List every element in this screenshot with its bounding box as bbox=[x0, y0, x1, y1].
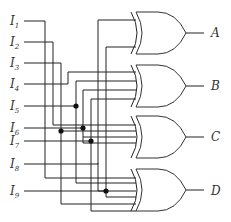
xor-gate-body bbox=[136, 169, 186, 211]
output-label-d: D bbox=[210, 184, 221, 198]
input-label-4: I4 bbox=[9, 77, 19, 93]
junction-dot bbox=[88, 138, 93, 143]
logic-circuit-diagram: I1 I2 I3 I4 I5 I6 I7 I8 I9 bbox=[0, 0, 231, 222]
input-label-2: I2 bbox=[9, 35, 20, 51]
xor-gate-body bbox=[136, 65, 186, 107]
xor-gate-body bbox=[136, 12, 186, 54]
input-label-1: I1 bbox=[9, 14, 19, 30]
bus-v98b bbox=[98, 163, 136, 191]
wires bbox=[24, 20, 136, 211]
bus-v106 bbox=[106, 47, 136, 197]
xor-gates bbox=[131, 12, 204, 211]
xor-input-curve bbox=[131, 12, 137, 54]
xor-input-curve bbox=[131, 65, 137, 107]
input-labels: I1 I2 I3 I4 I5 I6 I7 I8 I9 bbox=[9, 14, 20, 200]
input-label-3: I3 bbox=[9, 56, 20, 72]
junction-dot bbox=[58, 128, 63, 133]
junction-dot bbox=[103, 188, 108, 193]
xor-gate-d bbox=[131, 169, 204, 211]
xor-input-curve bbox=[131, 169, 137, 211]
xor-gate-a bbox=[131, 12, 204, 54]
input-label-9: I9 bbox=[9, 184, 20, 200]
xor-gate-body bbox=[136, 116, 186, 158]
xor-gate-c bbox=[131, 116, 204, 158]
wire-i4 bbox=[24, 72, 136, 84]
junction-dot bbox=[80, 125, 85, 130]
input-label-5: I5 bbox=[9, 99, 20, 115]
junction-dot bbox=[73, 103, 78, 108]
output-label-a: A bbox=[210, 26, 220, 40]
output-label-b: B bbox=[210, 79, 220, 93]
output-label-c: C bbox=[211, 130, 220, 144]
output-labels: A B C D bbox=[210, 26, 221, 198]
input-label-8: I8 bbox=[9, 157, 20, 173]
xor-gate-b bbox=[131, 65, 204, 107]
